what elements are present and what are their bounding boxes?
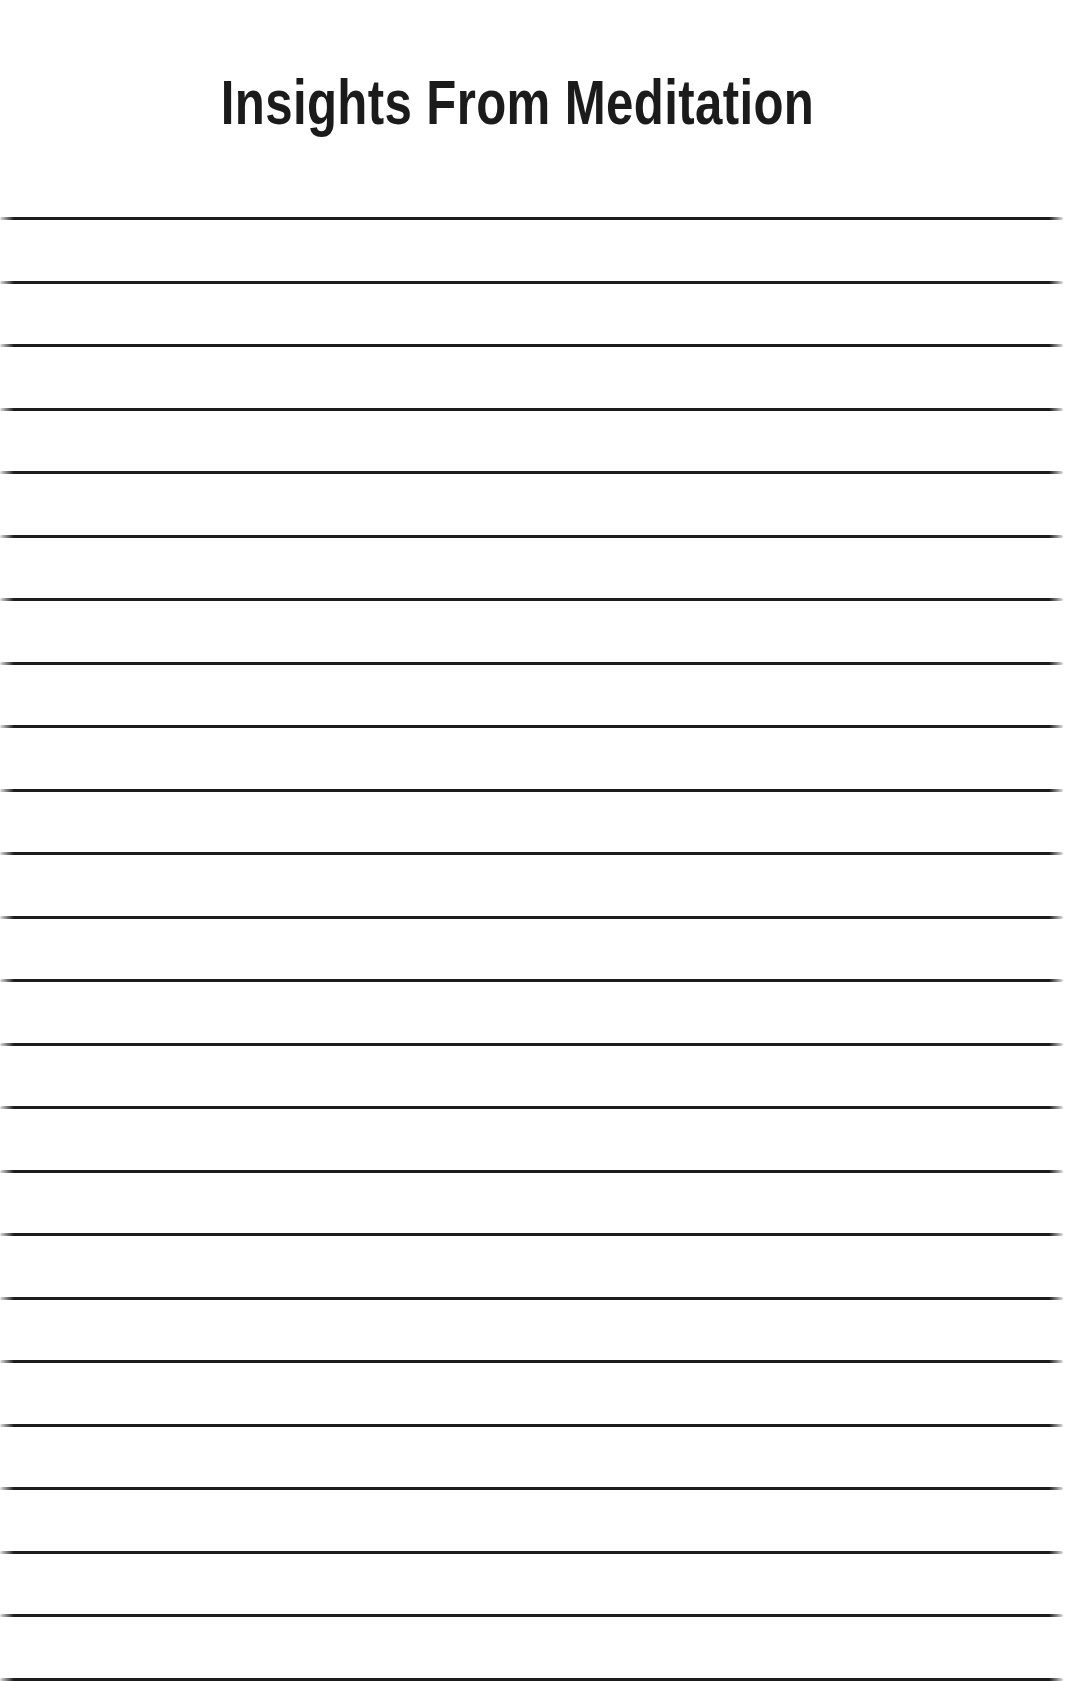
- ruled-line[interactable]: [0, 1424, 1063, 1427]
- ruled-line[interactable]: [0, 1360, 1063, 1363]
- note-page: Insights From Meditation: [0, 0, 1067, 1681]
- ruled-line[interactable]: [0, 852, 1063, 855]
- ruled-line[interactable]: [0, 535, 1063, 538]
- ruled-lines-area: [0, 0, 1067, 1681]
- ruled-line[interactable]: [0, 789, 1063, 792]
- ruled-line[interactable]: [0, 281, 1063, 284]
- ruled-line[interactable]: [0, 408, 1063, 411]
- ruled-line[interactable]: [0, 1551, 1063, 1554]
- ruled-line[interactable]: [0, 1170, 1063, 1173]
- ruled-line[interactable]: [0, 598, 1063, 601]
- ruled-line[interactable]: [0, 725, 1063, 728]
- ruled-line[interactable]: [0, 471, 1063, 474]
- ruled-line[interactable]: [0, 1487, 1063, 1490]
- ruled-line[interactable]: [0, 1043, 1063, 1046]
- ruled-line[interactable]: [0, 217, 1063, 220]
- ruled-line[interactable]: [0, 1614, 1063, 1617]
- ruled-line[interactable]: [0, 1678, 1063, 1681]
- ruled-line[interactable]: [0, 1297, 1063, 1300]
- ruled-line[interactable]: [0, 979, 1063, 982]
- ruled-line[interactable]: [0, 662, 1063, 665]
- ruled-line[interactable]: [0, 344, 1063, 347]
- ruled-line[interactable]: [0, 1233, 1063, 1236]
- ruled-line[interactable]: [0, 916, 1063, 919]
- ruled-line[interactable]: [0, 1106, 1063, 1109]
